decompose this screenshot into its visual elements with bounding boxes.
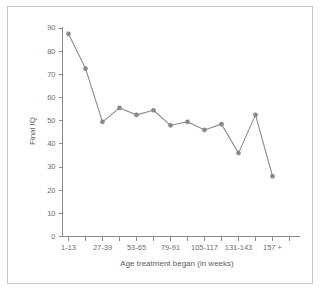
- x-tick-label: 1-13: [61, 243, 76, 252]
- data-point: [219, 122, 223, 126]
- x-tick-label: 27-39: [93, 243, 112, 252]
- y-axis-title: Final IQ: [28, 117, 37, 145]
- data-point: [185, 120, 189, 124]
- x-tick-label: 105-117: [191, 243, 218, 252]
- x-axis-ticks: [69, 237, 290, 241]
- data-point: [253, 113, 257, 117]
- y-tick-label: 30: [47, 162, 55, 171]
- y-axis-ticks: [59, 28, 63, 237]
- data-point: [270, 174, 274, 178]
- y-axis-tick-labels: 0102030405060708090: [47, 23, 55, 241]
- data-point: [202, 128, 206, 132]
- data-series-line: [69, 34, 273, 176]
- line-chart: 0102030405060708090 1-1327-3953-6579-911…: [0, 0, 321, 292]
- data-point: [66, 32, 70, 36]
- data-point: [117, 106, 121, 110]
- x-tick-label: 157 +: [263, 243, 283, 252]
- data-point: [100, 120, 104, 124]
- x-tick-label: 131-143: [225, 243, 253, 252]
- x-axis-title: Age treatment began (in weeks): [120, 259, 234, 268]
- x-tick-label: 53-65: [127, 243, 146, 252]
- data-point: [134, 113, 138, 117]
- data-point: [151, 108, 155, 112]
- y-tick-label: 50: [47, 116, 55, 125]
- y-tick-label: 0: [51, 232, 55, 241]
- data-point: [168, 123, 172, 127]
- y-tick-label: 80: [47, 47, 55, 56]
- data-point: [83, 66, 87, 70]
- y-tick-label: 60: [47, 93, 55, 102]
- x-tick-label: 79-91: [161, 243, 180, 252]
- y-tick-label: 70: [47, 70, 55, 79]
- y-tick-label: 10: [47, 209, 55, 218]
- y-tick-label: 20: [47, 186, 55, 195]
- y-tick-label: 90: [47, 23, 55, 32]
- x-axis-tick-labels: 1-1327-3953-6579-91105-117131-143157 +: [61, 243, 283, 252]
- y-tick-label: 40: [47, 139, 55, 148]
- data-point: [236, 151, 240, 155]
- chart-page: 0102030405060708090 1-1327-3953-6579-911…: [0, 0, 321, 292]
